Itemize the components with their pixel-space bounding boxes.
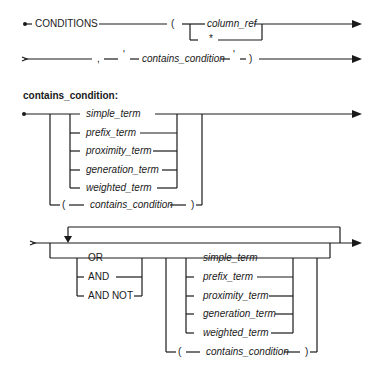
repeat-term-simple: simple_term: [203, 252, 257, 263]
term-proximity: proximity_term: [85, 145, 152, 156]
term-prefix: prefix_term: [85, 127, 136, 138]
arrow-right-icon: [352, 239, 362, 247]
repeat-term-prefix: prefix_term: [202, 271, 253, 282]
conditions-row-2: , ' contains_condition ' ): [22, 49, 362, 64]
repeat-term-weighted: weighted_term: [203, 327, 269, 338]
arrow-down-icon: [64, 236, 72, 243]
close-paren: ): [249, 53, 252, 64]
repeat-nested-close-paren: ): [305, 346, 308, 357]
section-heading: contains_condition:: [23, 90, 118, 101]
nested-open-paren: (: [62, 199, 66, 210]
contains-condition-block: simple_term prefix_term proximity_term g…: [22, 108, 362, 210]
operator-or: OR: [88, 252, 103, 263]
repeat-nested-contains-condition: contains_condition: [206, 346, 289, 357]
syntax-diagram: CONDITIONS ( column_ref * , ' contains_c…: [0, 0, 381, 375]
conditions-keyword: CONDITIONS: [35, 18, 98, 29]
quote-close: ': [233, 49, 235, 60]
operator-and: AND: [88, 271, 109, 282]
quote-open: ': [123, 49, 125, 60]
star-label: *: [209, 33, 213, 44]
repeat-term-proximity: proximity_term: [202, 290, 269, 301]
arrow-right-icon: [352, 55, 362, 63]
repeat-nested-open-paren: (: [178, 346, 182, 357]
arrow-right-icon: [352, 20, 362, 28]
repeat-term-generation: generation_term: [203, 308, 276, 319]
operator-and-not: AND NOT: [88, 290, 133, 301]
nested-close-paren: ): [191, 199, 194, 210]
comma: ,: [97, 53, 100, 64]
open-paren: (: [171, 18, 175, 29]
term-weighted: weighted_term: [86, 182, 152, 193]
nested-contains-condition: contains_condition: [90, 199, 173, 210]
term-simple: simple_term: [86, 108, 140, 119]
term-generation: generation_term: [86, 164, 159, 175]
repeat-block: OR AND AND NOT simple_term prefix_term p…: [30, 227, 362, 357]
column-ref-label: column_ref: [207, 18, 258, 29]
conditions-row-1: CONDITIONS ( column_ref *: [23, 18, 362, 44]
contains-condition-ref: contains_condition: [142, 53, 225, 64]
arrow-right-icon: [352, 110, 362, 118]
